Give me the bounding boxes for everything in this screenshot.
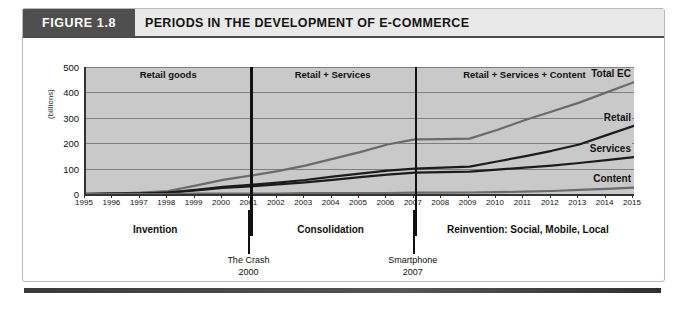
phase-label: Invention [133, 224, 177, 235]
band-label: Retail + Services + Content [463, 69, 586, 80]
footer-rule [24, 288, 661, 293]
x-tick-label: 1999 [185, 198, 203, 207]
series-label-content: Content [592, 173, 632, 184]
x-tick-label: 2009 [459, 198, 477, 207]
event-annotation: The Crash2000 [227, 254, 269, 278]
plot-region: Retail goodsRetail + ServicesRetail + Se… [84, 67, 634, 196]
event-year: 2000 [227, 266, 269, 278]
x-tick-label: 2000 [212, 198, 230, 207]
series-lines [86, 67, 634, 194]
period-divider [250, 67, 253, 236]
x-tick-label: 2001 [239, 198, 257, 207]
x-tick-label: 1997 [130, 198, 148, 207]
x-tick-label: 2015 [623, 198, 641, 207]
series-label-total-ec: Total EC [590, 68, 632, 79]
y-tick-label: 200 [45, 138, 79, 149]
y-tick-label: 0 [45, 189, 79, 200]
y-axis-ticks: 0100200300400500 [45, 36, 79, 281]
x-tick-label: 2005 [349, 198, 367, 207]
x-tick-label: 2004 [322, 198, 340, 207]
band-label: Retail goods [140, 69, 197, 80]
event-label: Smartphone [388, 254, 437, 266]
series-label-retail: Retail [603, 112, 632, 123]
series-label-services: Services [589, 143, 632, 154]
x-tick-label: 1998 [157, 198, 175, 207]
band-label: Retail + Services [295, 69, 371, 80]
x-tick-label: 1996 [102, 198, 120, 207]
chart-area: (billions) 0100200300400500 Retail goods… [23, 36, 664, 281]
x-tick-label: 2007 [404, 198, 422, 207]
page-title: PERIODS IN THE DEVELOPMENT OF E-COMMERCE [145, 9, 469, 36]
x-tick-label: 2014 [596, 198, 614, 207]
period-divider [415, 67, 418, 236]
phase-label: Reinvention: Social, Mobile, Local [447, 224, 609, 235]
phase-label: Consolidation [297, 224, 364, 235]
x-tick-label: 2008 [431, 198, 449, 207]
figure-header: FIGURE 1.8 PERIODS IN THE DEVELOPMENT OF… [23, 9, 664, 38]
series-line [86, 126, 634, 194]
y-tick-label: 100 [45, 163, 79, 174]
event-year: 2007 [388, 266, 437, 278]
y-tick-label: 400 [45, 87, 79, 98]
x-tick-label: 2012 [541, 198, 559, 207]
x-tick-label: 2002 [267, 198, 285, 207]
figure-card: FIGURE 1.8 PERIODS IN THE DEVELOPMENT OF… [22, 8, 665, 282]
x-axis: 1995199619971998199920002001200220032004… [84, 194, 632, 210]
event-leader-line [413, 210, 415, 254]
event-label: The Crash [227, 254, 269, 266]
y-tick-label: 300 [45, 112, 79, 123]
series-line [86, 157, 634, 194]
event-annotation: Smartphone2007 [388, 254, 437, 278]
x-tick-label: 2011 [514, 198, 531, 207]
event-leader-line [248, 210, 250, 254]
y-tick-label: 500 [45, 62, 79, 73]
x-tick-label: 2003 [294, 198, 312, 207]
x-tick-label: 2010 [486, 198, 504, 207]
figure-number-tag: FIGURE 1.8 [23, 9, 135, 36]
x-tick-label: 2006 [376, 198, 394, 207]
x-tick-label: 2013 [568, 198, 586, 207]
x-tick-label: 1995 [75, 198, 93, 207]
